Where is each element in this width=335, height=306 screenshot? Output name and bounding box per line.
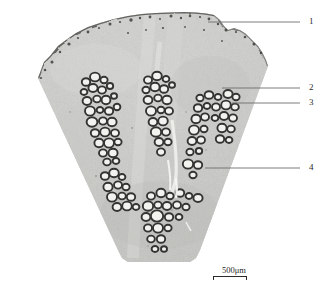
scale-bar-label: 500μm [209,266,259,275]
callout-label-2: 2 [309,83,314,92]
callout-label-3: 3 [309,98,314,107]
scale-bar-tick-right [246,276,247,280]
scale-bar-tick-left [213,276,214,280]
figure-panel: 1 2 3 4 500μm [0,0,335,306]
micrograph-svg [0,0,300,288]
scale-bar-rule [213,276,247,281]
scale-bar: 500μm [207,266,259,281]
callout-label-1: 1 [309,17,314,26]
callout-label-4: 4 [309,163,314,172]
micrograph-image [0,0,300,288]
scale-bar-line [213,276,247,277]
figure-caption [0,297,335,306]
tissue-section [0,0,300,288]
